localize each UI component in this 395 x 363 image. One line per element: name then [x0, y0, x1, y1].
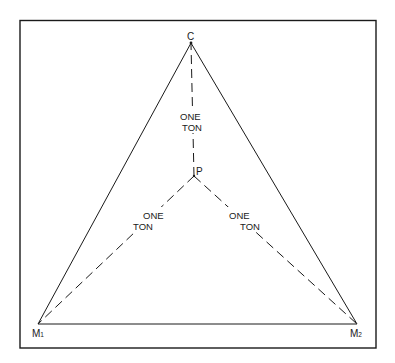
- node-subscript-m1: 1: [40, 331, 44, 338]
- vertex-p: [193, 175, 195, 177]
- edge-label-pc-line2: TON: [182, 122, 202, 133]
- node-label-c: C: [187, 31, 194, 42]
- weight-triangle-diagram: C P M1 M2 ONE TON ONE TON ONE TON: [0, 0, 395, 363]
- edge-label-pm2-line2: TON: [240, 221, 260, 232]
- node-label-p: P: [196, 166, 203, 177]
- edge-label-pc-line1: ONE: [180, 111, 201, 122]
- vertex-c: [190, 42, 193, 45]
- dashed-edge-p-m2: [194, 176, 357, 324]
- edge-label-pm1-line2: TON: [133, 221, 153, 232]
- dashed-edge-p-m1: [38, 176, 194, 324]
- outer-frame: [20, 21, 376, 349]
- edge-c-m2: [191, 43, 357, 324]
- node-label-m2: M2: [350, 328, 362, 339]
- edge-label-pm1-line1: ONE: [143, 210, 164, 221]
- edge-label-pm2-line1: ONE: [229, 210, 250, 221]
- node-label-m1: M1: [32, 328, 44, 339]
- node-subscript-m2: 2: [358, 331, 362, 338]
- edge-c-m1: [38, 43, 191, 324]
